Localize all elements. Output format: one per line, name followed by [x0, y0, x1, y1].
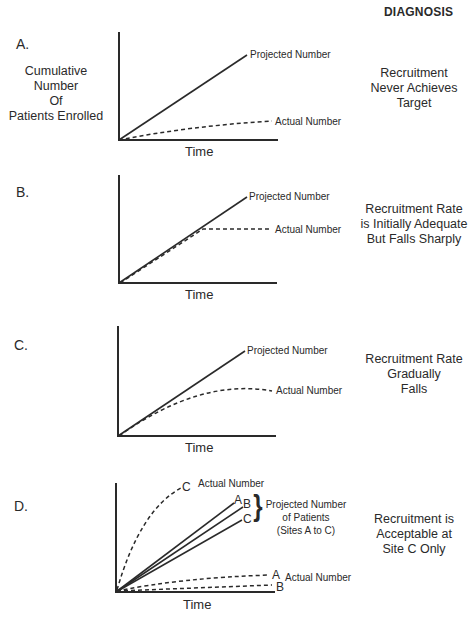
projected-group-line: of Patients: [263, 511, 349, 524]
panel-c-plot: [118, 326, 276, 436]
diagnosis-line: Recruitment Rate: [354, 202, 471, 217]
panel-c-actual-label: Actual Number: [276, 385, 342, 396]
panel-b-actual-line: [120, 229, 272, 283]
diagnosis-line: Recruitment Rate: [354, 352, 471, 367]
panel-d-actual-b: [117, 585, 272, 591]
panel-d-letter: D.: [14, 498, 28, 514]
panel-d-projected-a-site: A: [234, 493, 242, 507]
panel-d-actual-c-site: C: [182, 480, 191, 494]
panel-b-time-label: Time: [185, 287, 213, 302]
panel-c-actual-line: [119, 389, 272, 436]
diagnosis-line: Recruitment is: [354, 512, 471, 527]
y-axis-label-line: Of: [4, 94, 108, 109]
diagnosis-line: Recruitment: [354, 66, 471, 81]
diagnosis-line: Never Achieves: [354, 81, 471, 96]
panel-d-time-label: Time: [183, 597, 211, 612]
diagnosis-line: Target: [354, 96, 471, 111]
panel-c-projected-label: Projected Number: [247, 345, 328, 356]
brace-icon: }: [253, 491, 262, 521]
panel-d-actual-bottom-label: Actual Number: [285, 572, 351, 583]
panel-c-letter: C.: [14, 337, 28, 353]
diagnosis-line: But Falls Sharply: [354, 232, 471, 247]
panel-c-diagnosis: Recruitment Rate Gradually Falls: [354, 352, 471, 397]
panel-d-actual-c: [117, 488, 181, 590]
panel-a-letter: A.: [16, 36, 29, 52]
y-axis-label-line: Cumulative Number: [4, 64, 108, 94]
panel-a-actual-label: Actual Number: [275, 116, 341, 127]
panel-d-diagnosis: Recruitment is Acceptable at Site C Only: [354, 512, 471, 557]
panel-b-actual-label: Actual Number: [275, 224, 341, 235]
panel-a-projected-line: [119, 55, 247, 140]
panel-b-letter: B.: [16, 184, 29, 200]
panel-d-projected-a: [116, 503, 234, 592]
panel-d-projected-b: [116, 507, 243, 592]
panel-b-projected-label: Projected Number: [249, 191, 330, 202]
panel-d-actual-top-label: Actual Number: [198, 478, 264, 489]
panel-a-time-label: Time: [185, 144, 213, 159]
panel-d-actual-b-site: B: [276, 580, 284, 594]
projected-group-line: (Sites A to C): [263, 524, 349, 537]
panel-d-projected-b-site: B: [243, 497, 251, 511]
y-axis-label: Cumulative Number Of Patients Enrolled: [4, 64, 108, 124]
panel-d-projected-c-site: C: [243, 512, 252, 526]
panel-a-projected-label: Projected Number: [250, 49, 331, 60]
panel-a-diagnosis: Recruitment Never Achieves Target: [354, 66, 471, 111]
panel-b-projected-line: [119, 197, 247, 283]
panel-b-diagnosis: Recruitment Rate is Initially Adequate B…: [354, 202, 471, 247]
panel-d-plot: [116, 483, 275, 592]
diagnosis-line: Acceptable at: [354, 527, 471, 542]
diagnosis-line: Gradually: [354, 367, 471, 382]
diagnosis-line: Falls: [354, 382, 471, 397]
panel-c-time-label: Time: [185, 440, 213, 455]
y-axis-label-line: Patients Enrolled: [4, 109, 108, 124]
diagnosis-line: Site C Only: [354, 542, 471, 557]
panel-d-projected-group-label: Projected Number of Patients (Sites A to…: [263, 498, 349, 537]
projected-group-line: Projected Number: [263, 498, 349, 511]
diagnosis-line: is Initially Adequate: [354, 217, 471, 232]
